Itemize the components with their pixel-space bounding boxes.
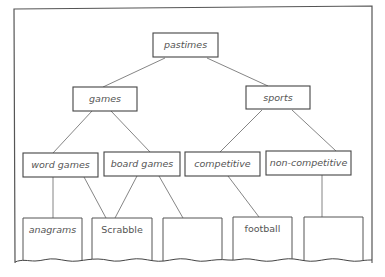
leaf-anagrams: anagrams <box>23 218 82 262</box>
below-tear-background <box>14 263 374 277</box>
leaf-empty-1 <box>163 218 222 262</box>
pastimes-tree-diagram: pastimes games sports word games board g… <box>0 0 385 277</box>
edge-pastimes-sports <box>207 58 268 86</box>
node-word-games: word games <box>23 153 98 177</box>
node-non-competitive: non-competitive <box>266 151 351 175</box>
tree-edges <box>53 58 336 218</box>
edge-pastimes-games <box>103 58 165 87</box>
node-label: word games <box>31 159 89 170</box>
node-sports: sports <box>246 86 310 109</box>
edge-word-games-scrabble <box>84 177 106 218</box>
edge-sports-non-competitive <box>292 110 336 151</box>
node-label: sports <box>263 92 292 103</box>
edge-games-board-games <box>111 111 150 152</box>
leaf-label: Scrabble <box>101 224 143 235</box>
node-label: pastimes <box>163 39 207 50</box>
leaf-label: football <box>245 223 281 234</box>
node-board-games: board games <box>104 152 180 176</box>
node-label: competitive <box>194 158 251 169</box>
node-label: board games <box>111 158 174 169</box>
edge-board-games-scrabble <box>115 176 137 218</box>
edge-board-games-empty-1 <box>159 176 183 218</box>
leaf-empty-2 <box>304 217 363 262</box>
edge-competitive-football <box>228 176 259 217</box>
node-pastimes: pastimes <box>153 33 218 57</box>
edge-sports-competitive <box>220 110 262 152</box>
leaf-scrabble: Scrabble <box>92 218 152 262</box>
node-competitive: competitive <box>185 152 260 176</box>
node-label: games <box>89 93 121 104</box>
edge-games-word-games <box>53 111 92 153</box>
node-games: games <box>73 87 137 111</box>
leaf-label: anagrams <box>29 224 77 235</box>
node-label: non-competitive <box>270 157 348 168</box>
leaf-football: football <box>233 217 292 262</box>
